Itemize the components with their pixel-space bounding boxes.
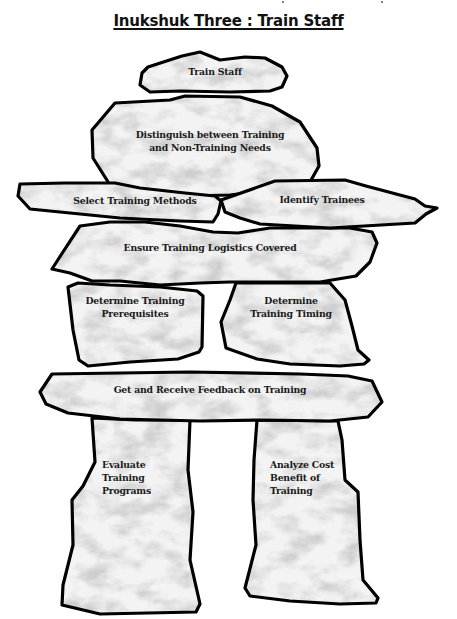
stone-label: Train Staff bbox=[188, 66, 242, 77]
label-right-torso: Determine Training Timing bbox=[236, 294, 346, 320]
stone-left-leg bbox=[62, 418, 200, 614]
label-neck: Distinguish between Training and Non-Tra… bbox=[110, 128, 310, 154]
stone-label-line: Training Timing bbox=[236, 307, 346, 320]
label-left-arm: Select Training Methods bbox=[55, 194, 215, 207]
stone-right-leg bbox=[245, 420, 378, 604]
stone-label-line: Determine bbox=[236, 294, 346, 307]
label-right-arm: Identify Trainees bbox=[262, 193, 382, 206]
label-left-leg: Evaluate Training Programs bbox=[102, 458, 182, 497]
stone-label-line: Programs bbox=[102, 484, 182, 497]
stone-label-line: Training bbox=[270, 484, 350, 497]
stone-label-line: Analyze Cost bbox=[270, 458, 350, 471]
label-head: Train Staff bbox=[150, 65, 280, 78]
stone-hips bbox=[40, 372, 382, 421]
stone-label-line: Determine Training bbox=[75, 294, 195, 307]
inukshuk-diagram bbox=[0, 0, 457, 619]
label-left-torso: Determine Training Prerequisites bbox=[75, 294, 195, 320]
stone-label: Identify Trainees bbox=[279, 194, 364, 205]
stone-label-line: Training bbox=[102, 471, 182, 484]
stone-label-line: Benefit of bbox=[270, 471, 350, 484]
label-right-leg: Analyze Cost Benefit of Training bbox=[270, 458, 350, 497]
label-shoulders: Ensure Training Logistics Covered bbox=[110, 241, 310, 254]
stone-label: Ensure Training Logistics Covered bbox=[124, 242, 297, 253]
stone-label-line: Prerequisites bbox=[75, 307, 195, 320]
stone-label-line: Evaluate bbox=[102, 458, 182, 471]
stone-label: Get and Receive Feedback on Training bbox=[114, 384, 307, 395]
stone-label-line: Distinguish between Training bbox=[110, 128, 310, 141]
stone-label-line: and Non-Training Needs bbox=[110, 141, 310, 154]
stone-label: Select Training Methods bbox=[73, 195, 196, 206]
label-hips: Get and Receive Feedback on Training bbox=[100, 383, 320, 396]
